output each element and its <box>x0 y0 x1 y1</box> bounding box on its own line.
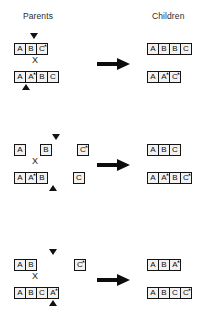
gene-label: B <box>26 288 36 298</box>
gene-box: C <box>74 259 86 271</box>
gene-label: B <box>37 72 47 82</box>
gene-label: A <box>148 145 158 155</box>
gene-label: A <box>170 260 180 270</box>
gene-label: B <box>26 260 36 270</box>
gene-label: B <box>26 44 36 54</box>
gene-box: B <box>25 259 37 271</box>
gene-label: B <box>159 44 169 54</box>
arrow-head <box>117 58 130 70</box>
gene-label: A <box>26 173 36 183</box>
gene-box: A <box>169 259 181 271</box>
child-chromosome-a: ABA <box>147 259 180 272</box>
gene-label: A <box>148 44 158 54</box>
crossover-marker-up-icon <box>49 300 57 306</box>
crossover-marker-up-icon <box>22 84 30 90</box>
child-chromosome-b: AAC <box>147 71 180 84</box>
gene-label: A <box>148 173 158 183</box>
gene-box: C <box>47 71 59 83</box>
parent-chromosome-b: AABC <box>14 172 84 185</box>
gene-box: C <box>180 43 192 55</box>
gene-label: C <box>48 72 58 82</box>
gene-box: C <box>180 287 192 299</box>
gene-box: B <box>40 144 52 156</box>
gene-label: B <box>170 44 180 54</box>
parent-chromosome-b: AABC <box>14 71 58 84</box>
cross-symbol: X <box>32 272 38 281</box>
gene-label: A <box>148 288 158 298</box>
gene-box: A <box>14 144 26 156</box>
crossover-diagram: Parents Children ABCAABCABBCAACX ABCAABC… <box>0 0 210 323</box>
arrow-shaft <box>97 278 119 282</box>
gene-label: C <box>37 44 47 54</box>
gene-label: C <box>170 72 180 82</box>
right-arrow-icon <box>97 58 133 70</box>
parent-chromosome-b: ABCA <box>14 287 58 300</box>
gene-label: B <box>170 173 180 183</box>
gene-label: A <box>15 288 25 298</box>
arrow-head <box>117 274 130 286</box>
gene-label: A <box>15 72 25 82</box>
gene-label: A <box>26 72 36 82</box>
gene-box: A <box>47 287 59 299</box>
arrow-head <box>117 159 130 171</box>
parent-chromosome-a: ABC <box>14 144 88 157</box>
gene-box: B <box>36 172 48 184</box>
gene-label: A <box>159 72 169 82</box>
gene-box: C <box>73 172 85 184</box>
gene-label: A <box>148 72 158 82</box>
gene-label: C <box>181 173 191 183</box>
arrow-shaft <box>97 163 119 167</box>
gene-label: B <box>37 173 47 183</box>
crossover-marker-down-icon <box>49 249 57 255</box>
gene-box: C <box>169 144 181 156</box>
gene-label: C <box>170 145 180 155</box>
child-chromosome-b: ABCC <box>147 287 191 300</box>
gene-label: C <box>181 288 191 298</box>
gene-label: A <box>148 260 158 270</box>
gene-label: A <box>15 145 25 155</box>
cross-symbol: X <box>32 56 38 65</box>
crossover-marker-down-icon <box>30 33 38 39</box>
column-header-parents: Parents <box>23 11 53 21</box>
child-chromosome-a: ABBC <box>147 43 191 56</box>
gene-label: C <box>78 145 88 155</box>
gene-box: C <box>36 43 48 55</box>
gene-label: C <box>75 260 85 270</box>
gene-label: C <box>74 173 84 183</box>
right-arrow-icon <box>97 159 133 171</box>
gene-label: C <box>37 288 47 298</box>
gene-label: B <box>159 288 169 298</box>
column-header-children: Children <box>152 11 184 21</box>
gene-box: C <box>77 144 89 156</box>
gene-label: A <box>159 173 169 183</box>
arrow-shaft <box>97 62 119 66</box>
gene-label: B <box>159 145 169 155</box>
crossover-marker-down-icon <box>52 134 60 140</box>
gene-label: B <box>159 260 169 270</box>
child-chromosome-a: ABC <box>147 144 180 157</box>
gene-label: A <box>15 44 25 54</box>
gene-label: C <box>170 288 180 298</box>
parent-chromosome-a: ABC <box>14 43 47 56</box>
gene-label: A <box>48 288 58 298</box>
gene-label: C <box>181 44 191 54</box>
gene-label: B <box>41 145 51 155</box>
gene-box: C <box>180 172 192 184</box>
gene-box: C <box>169 71 181 83</box>
crossover-marker-up-icon <box>49 185 57 191</box>
cross-symbol: X <box>32 157 38 166</box>
right-arrow-icon <box>97 274 133 286</box>
parent-chromosome-a: ABC <box>14 259 85 272</box>
gene-label: A <box>15 173 25 183</box>
gene-label: A <box>15 260 25 270</box>
child-chromosome-b: AABC <box>147 172 191 185</box>
